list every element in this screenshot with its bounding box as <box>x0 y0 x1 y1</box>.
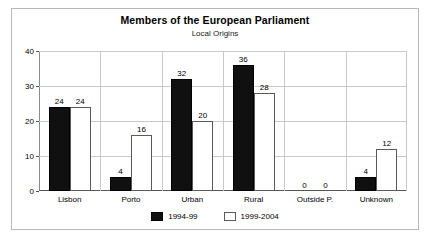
bar[interactable] <box>233 65 254 191</box>
category-group: 412Unknown <box>346 51 407 191</box>
chart-legend: 1994-991999-2004 <box>12 212 418 221</box>
bar-pair: 3220 <box>162 51 223 191</box>
x-axis-category-label: Unknown <box>346 195 407 204</box>
plot-area: 010203040 2424Lisbon416Porto3220Urban362… <box>39 51 407 191</box>
legend-swatch <box>151 212 163 221</box>
bar-value-label: 24 <box>76 97 85 106</box>
bar[interactable] <box>49 107 70 191</box>
bar-value-label: 4 <box>118 167 122 176</box>
bar-value-label: 0 <box>323 181 327 190</box>
bar-value-label: 32 <box>177 69 186 78</box>
y-axis-tick-label: 20 <box>25 117 34 126</box>
chart-frame: Members of the European Parliament Local… <box>11 8 419 230</box>
bar[interactable] <box>254 93 275 191</box>
y-axis-tick-mark <box>36 191 39 192</box>
bar-slot: 32 <box>171 51 192 191</box>
bar[interactable] <box>131 135 152 191</box>
x-axis-category-label: Urban <box>162 195 223 204</box>
bar[interactable] <box>171 79 192 191</box>
bar-slot: 12 <box>376 51 397 191</box>
y-axis-tick-label: 30 <box>25 82 34 91</box>
legend-label: 1999-2004 <box>241 212 279 221</box>
legend-label: 1994-99 <box>168 212 197 221</box>
x-axis-category-label: Porto <box>100 195 161 204</box>
bar-slot: 28 <box>254 51 275 191</box>
bar-value-label: 16 <box>137 125 146 134</box>
y-axis-tick-label: 10 <box>25 152 34 161</box>
bar-slot: 16 <box>131 51 152 191</box>
bar[interactable] <box>70 107 91 191</box>
y-axis-tick-label: 0 <box>30 187 34 196</box>
bar[interactable] <box>355 177 376 191</box>
chart-title: Members of the European Parliament <box>12 14 418 27</box>
category-group: 2424Lisbon <box>39 51 100 191</box>
bar-slot: 4 <box>110 51 131 191</box>
category-group: 00Outside P. <box>284 51 345 191</box>
legend-item[interactable]: 1999-2004 <box>224 212 279 221</box>
x-axis-category-label: Outside P. <box>284 195 345 204</box>
bar-value-label: 0 <box>302 181 306 190</box>
bar-slot: 36 <box>233 51 254 191</box>
bar-pair: 416 <box>100 51 161 191</box>
bar-value-label: 28 <box>260 83 269 92</box>
bar-slot: 20 <box>192 51 213 191</box>
bar-value-label: 4 <box>364 167 368 176</box>
bar-value-label: 24 <box>55 97 64 106</box>
category-group: 416Porto <box>100 51 161 191</box>
bar-slot: 24 <box>70 51 91 191</box>
title-block: Members of the European Parliament Local… <box>12 14 418 39</box>
category-group: 3628Rural <box>223 51 284 191</box>
bar-pair: 00 <box>284 51 345 191</box>
category-group: 3220Urban <box>162 51 223 191</box>
bar[interactable] <box>110 177 131 191</box>
bar-slot: 0 <box>294 51 315 191</box>
bar-pair: 3628 <box>223 51 284 191</box>
bar[interactable] <box>376 149 397 191</box>
bar-value-label: 20 <box>198 111 207 120</box>
bar[interactable] <box>192 121 213 191</box>
bar-pair: 412 <box>346 51 407 191</box>
bar-value-label: 36 <box>239 55 248 64</box>
bar-value-label: 12 <box>382 139 391 148</box>
legend-swatch <box>224 212 236 221</box>
bar-pair: 2424 <box>39 51 100 191</box>
bar-slot: 0 <box>315 51 336 191</box>
chart-subtitle: Local Origins <box>12 28 418 39</box>
y-axis-tick-label: 40 <box>25 47 34 56</box>
x-axis-category-label: Lisbon <box>39 195 100 204</box>
bar-slot: 24 <box>49 51 70 191</box>
bar-slot: 4 <box>355 51 376 191</box>
legend-item[interactable]: 1994-99 <box>151 212 197 221</box>
x-axis-category-label: Rural <box>223 195 284 204</box>
